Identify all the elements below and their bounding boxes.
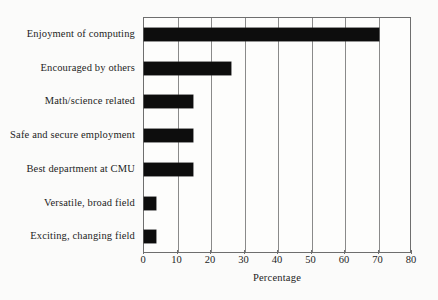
- category-label: Safe and secure employment: [10, 118, 135, 152]
- bar-row: [144, 153, 410, 187]
- tick-label-80: 80: [406, 254, 417, 265]
- tick-label-50: 50: [305, 254, 316, 265]
- bar-row: [144, 52, 410, 86]
- category-label: Math/science related: [45, 84, 135, 118]
- x-axis-title: Percentage: [143, 272, 411, 283]
- bar: [144, 230, 156, 243]
- category-axis-labels: Enjoyment of computingEncouraged by othe…: [0, 17, 139, 253]
- bar-row: [144, 85, 410, 119]
- tick-label-30: 30: [238, 254, 249, 265]
- bars-container: [144, 18, 410, 252]
- tick-label-60: 60: [339, 254, 350, 265]
- tick-label-70: 70: [372, 254, 383, 265]
- tick-label-10: 10: [171, 254, 182, 265]
- tick-label-40: 40: [272, 254, 283, 265]
- value-axis-ticks: 01020304050607080: [143, 254, 411, 270]
- bar: [144, 28, 379, 41]
- bar: [144, 62, 231, 75]
- bar-row: [144, 119, 410, 153]
- bar-chart-figure: Enjoyment of computingEncouraged by othe…: [0, 0, 438, 300]
- bar: [144, 163, 193, 176]
- category-label: Encouraged by others: [40, 51, 135, 85]
- category-label: Versatile, broad field: [44, 186, 135, 220]
- bar: [144, 129, 193, 142]
- bar-row: [144, 220, 410, 254]
- category-label: Best department at CMU: [26, 152, 135, 186]
- bar: [144, 95, 193, 108]
- bar-row: [144, 187, 410, 221]
- category-label: Exciting, changing field: [30, 219, 135, 253]
- tick-label-0: 0: [140, 254, 145, 265]
- category-label: Enjoyment of computing: [27, 17, 135, 51]
- plot-area: [143, 17, 411, 253]
- bar-row: [144, 18, 410, 52]
- tick-label-20: 20: [205, 254, 216, 265]
- bar: [144, 197, 156, 210]
